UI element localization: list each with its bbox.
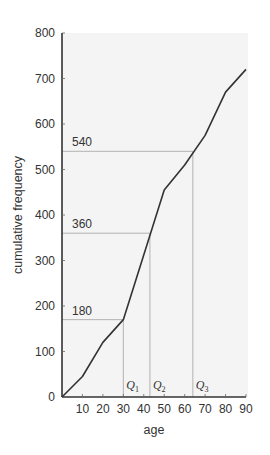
guide-label: 540 [72,135,92,149]
y-tick-label: 200 [35,299,55,313]
y-tick-label: 500 [35,163,55,177]
x-tick-label: 40 [137,402,151,416]
x-tick-label: 50 [158,402,172,416]
x-tick-label: 70 [198,402,212,416]
x-axis-label: age [144,423,165,437]
cumulative-frequency-chart: 180Q1360Q2540Q3 010020030040050060070080… [0,0,270,455]
y-tick-label: 400 [35,208,55,222]
x-tick-label: 30 [117,402,131,416]
y-tick-label: 0 [48,390,55,404]
x-tick-label: 20 [96,402,110,416]
y-tick-label: 600 [35,117,55,131]
y-tick-label: 300 [35,254,55,268]
y-axis-label: cumulative frequency [11,155,25,274]
guide-label: 180 [72,304,92,318]
y-tick-label: 100 [35,345,55,359]
x-tick-label: 60 [178,402,192,416]
x-tick-label: 80 [219,402,233,416]
y-tick-label: 800 [35,26,55,40]
plot-background [62,33,248,397]
x-tick-label: 90 [239,402,253,416]
x-tick-label: 10 [76,402,90,416]
y-tick-label: 700 [35,72,55,86]
guide-label: 360 [72,217,92,231]
